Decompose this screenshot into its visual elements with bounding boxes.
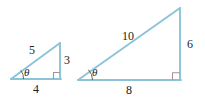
small-triangle-angle-label: θ bbox=[24, 67, 29, 78]
large-triangle-adjacent-label: 8 bbox=[126, 84, 132, 96]
large-triangle-angle-label: θ bbox=[92, 67, 97, 78]
large-triangle-right-angle-marker bbox=[173, 73, 181, 80]
small-triangle-adjacent-label: 4 bbox=[33, 83, 39, 95]
small-triangle-shape bbox=[11, 43, 61, 79]
small-triangle-opposite-label: 3 bbox=[64, 54, 70, 66]
large-triangle-hypotenuse-label: 10 bbox=[122, 30, 134, 42]
small-triangle-hypotenuse-label: 5 bbox=[29, 44, 35, 56]
large-triangle-opposite-label: 6 bbox=[187, 38, 193, 50]
geometry-figure: 5 3 4 θ 10 6 8 θ bbox=[0, 0, 205, 102]
small-triangle-hypotenuse-line bbox=[11, 43, 60, 79]
small-triangle-right-angle-marker bbox=[54, 73, 61, 80]
